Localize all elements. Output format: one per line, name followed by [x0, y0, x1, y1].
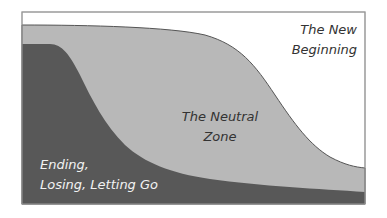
new-beginning-line-1: The New: [292, 20, 357, 40]
new-beginning-label: The New Beginning: [292, 20, 357, 60]
ending-line-1: Ending,: [40, 155, 158, 175]
ending-label: Ending, Losing, Letting Go: [40, 155, 158, 195]
new-beginning-line-2: Beginning: [292, 40, 357, 60]
neutral-zone-line-1: The Neutral: [160, 107, 280, 127]
neutral-zone-label: The Neutral Zone: [160, 107, 280, 147]
neutral-zone-line-2: Zone: [160, 127, 280, 147]
ending-line-2: Losing, Letting Go: [40, 175, 158, 195]
